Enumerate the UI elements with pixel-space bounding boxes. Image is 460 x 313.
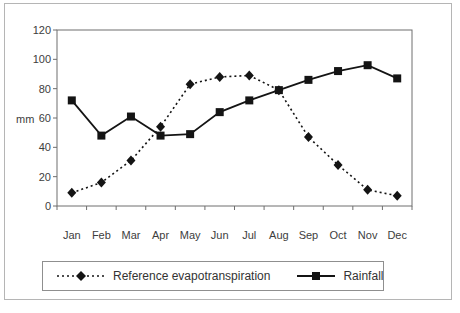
square-marker-icon: [216, 108, 224, 116]
square-marker-icon: [393, 74, 401, 82]
y-axis-tick-label: 80: [39, 83, 51, 95]
square-marker-icon: [245, 96, 253, 104]
y-axis-tick-label: 60: [39, 112, 51, 124]
diamond-marker-icon: [156, 122, 165, 132]
x-axis-category-label: Apr: [152, 229, 169, 241]
diamond-marker-icon: [363, 185, 372, 195]
y-axis-tick-label: 120: [33, 24, 51, 36]
x-axis-category-label: Jan: [63, 229, 81, 241]
square-marker-icon: [157, 132, 165, 140]
plot-area-svg: 020406080100120JanFebMarAprMayJunJulAugS…: [0, 0, 460, 258]
chart-figure: 020406080100120JanFebMarAprMayJunJulAugS…: [0, 0, 460, 313]
diamond-marker-icon: [334, 160, 343, 170]
diamond-marker-icon: [67, 188, 76, 198]
square-marker-icon: [364, 61, 372, 69]
x-axis-category-label: Feb: [92, 229, 111, 241]
x-axis-category-label: Mar: [121, 229, 140, 241]
dotted-diamond-line-icon: [56, 270, 106, 282]
x-axis-category-label: Dec: [387, 229, 407, 241]
solid-square-line-icon: [296, 270, 336, 282]
diamond-marker-icon: [245, 70, 254, 80]
legend-item-rainfall: Rainfall: [296, 269, 383, 283]
x-axis-category-label: May: [180, 229, 201, 241]
x-axis-category-label: Nov: [358, 229, 378, 241]
y-axis-tick-label: 100: [33, 53, 51, 65]
x-axis-category-label: Aug: [269, 229, 289, 241]
x-axis-category-label: Jun: [211, 229, 229, 241]
diamond-marker-icon: [393, 191, 402, 201]
diamond-marker-icon: [97, 178, 106, 188]
x-axis-category-label: Sep: [299, 229, 319, 241]
square-marker-icon: [97, 132, 105, 140]
diamond-marker-icon: [215, 72, 224, 82]
legend-box: Reference evapotranspiration Rainfall: [42, 261, 384, 291]
y-axis-tick-label: 0: [45, 200, 51, 212]
square-marker-icon: [275, 86, 283, 94]
diamond-marker-icon: [304, 132, 313, 142]
square-marker-icon: [334, 67, 342, 75]
square-marker-icon: [304, 76, 312, 84]
y-axis-tick-label: 20: [39, 171, 51, 183]
square-marker-icon: [127, 113, 135, 121]
legend-label-evapotranspiration: Reference evapotranspiration: [113, 269, 270, 283]
diamond-marker-icon: [126, 156, 135, 166]
y-axis-title: mm: [16, 113, 34, 125]
plot-area-border: [57, 30, 412, 206]
y-axis-tick-label: 40: [39, 141, 51, 153]
square-marker-icon: [186, 130, 194, 138]
x-axis-category-label: Oct: [329, 229, 346, 241]
legend-item-evapotranspiration: Reference evapotranspiration: [56, 269, 270, 283]
square-marker-icon: [68, 96, 76, 104]
series-line-reference-evapotranspiration: [72, 75, 397, 195]
legend-label-rainfall: Rainfall: [343, 269, 383, 283]
x-axis-category-label: Jul: [242, 229, 256, 241]
